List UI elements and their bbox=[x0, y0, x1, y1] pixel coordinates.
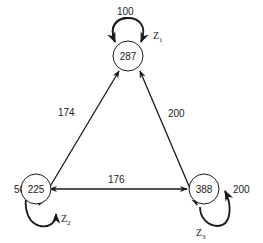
self-loop-top bbox=[113, 18, 144, 42]
edge-weight-left-right: 176 bbox=[108, 174, 125, 185]
node-left: 225 bbox=[21, 174, 51, 204]
edge-weight-top-left: 174 bbox=[58, 107, 75, 118]
loop-label-top: Z1 bbox=[153, 30, 163, 44]
loop-weight-top: 100 bbox=[117, 6, 134, 17]
edge-top-right bbox=[140, 71, 197, 205]
node-right: 388 bbox=[189, 174, 219, 204]
node-top: 287 bbox=[113, 41, 143, 71]
node-value-right: 388 bbox=[196, 184, 213, 195]
node-value-left: 225 bbox=[28, 184, 45, 195]
graph-diagram: 174 200 176 100 Z1 50 Z2 200 Z3 287 225 … bbox=[0, 0, 263, 243]
loop-weight-right: 200 bbox=[233, 184, 250, 195]
node-value-top: 287 bbox=[120, 51, 137, 62]
edge-top-left bbox=[39, 71, 119, 205]
edge-weight-top-right: 200 bbox=[168, 108, 185, 119]
loop-label-left: Z2 bbox=[61, 213, 71, 227]
loop-label-right: Z3 bbox=[196, 227, 206, 241]
